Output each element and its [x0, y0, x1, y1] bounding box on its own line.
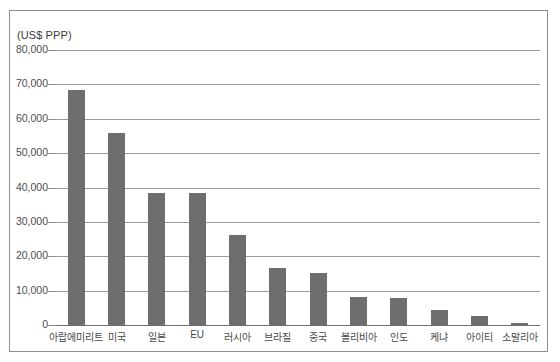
y-tick-label-50000: 50,000	[0, 146, 48, 158]
bar	[390, 298, 407, 326]
y-tick-label-70000: 70,000	[0, 77, 48, 89]
plot-area	[56, 50, 540, 325]
y-tick-mark-0	[48, 325, 56, 326]
bar	[431, 310, 448, 325]
bar	[68, 90, 85, 325]
x-tick-label: 중국	[309, 329, 327, 344]
x-tick-label: EU	[190, 329, 204, 340]
bar-series	[56, 50, 540, 325]
y-axis-labels: 80,00070,00060,00050,00040,00030,00020,0…	[0, 0, 56, 362]
x-tick-label: 미국	[108, 329, 126, 344]
bar	[471, 316, 488, 325]
bar	[310, 273, 327, 325]
bar	[148, 193, 165, 325]
y-tick-label-10000: 10,000	[0, 284, 48, 296]
gridline-0	[56, 325, 540, 326]
x-tick-label: 인도	[390, 329, 408, 344]
y-tick-mark-70000	[48, 84, 56, 85]
y-tick-mark-10000	[48, 291, 56, 292]
x-tick-label: 아랍에미리트	[49, 329, 103, 344]
chart-screenshot: (US$ PPP) 80,00070,00060,00050,00040,000…	[0, 0, 560, 362]
x-tick-label: 케냐	[430, 329, 448, 344]
bar	[269, 268, 286, 325]
x-tick-label: 소말리아	[502, 329, 538, 344]
bar	[511, 323, 528, 325]
x-tick-label: 일본	[148, 329, 166, 344]
x-tick-label: 러시아	[224, 329, 251, 344]
y-tick-label-60000: 60,000	[0, 112, 48, 124]
y-tick-label-30000: 30,000	[0, 215, 48, 227]
y-tick-mark-80000	[48, 50, 56, 51]
bar	[108, 133, 125, 326]
x-tick-label: 볼리비아	[341, 329, 377, 344]
x-axis-labels: 아랍에미리트미국일본EU러시아브라질중국볼리비아인도케냐아이티소말리아	[56, 329, 540, 351]
x-tick-label: 브라질	[264, 329, 291, 344]
x-tick-label: 아이티	[466, 329, 493, 344]
y-tick-mark-50000	[48, 153, 56, 154]
y-tick-mark-40000	[48, 188, 56, 189]
y-tick-mark-30000	[48, 222, 56, 223]
y-tick-label-40000: 40,000	[0, 181, 48, 193]
y-tick-label-20000: 20,000	[0, 249, 48, 261]
bar	[189, 193, 206, 325]
bar	[350, 297, 367, 325]
y-tick-label-80000: 80,000	[0, 43, 48, 55]
y-tick-label-0: 0	[0, 318, 48, 330]
bar	[229, 235, 246, 325]
y-tick-mark-20000	[48, 256, 56, 257]
y-tick-mark-60000	[48, 119, 56, 120]
